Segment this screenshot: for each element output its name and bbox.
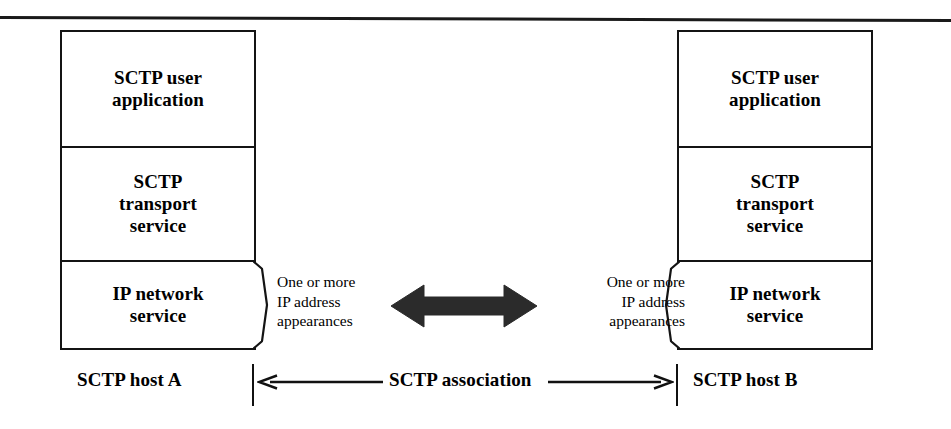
association-caption-row: SCTP host A SCTP association SCTP host B	[0, 362, 951, 410]
layer-label: SCTP user application	[112, 67, 204, 111]
layer-label: IP network service	[729, 283, 820, 327]
association-tick-left-icon	[252, 364, 254, 406]
ip-address-note-left: One or more IP address appearances	[277, 272, 355, 331]
association-label: SCTP association	[389, 369, 532, 391]
protocol-stack-host-b: SCTP user application SCTP transport ser…	[677, 30, 873, 350]
ip-layer-bulge-right-icon	[253, 260, 269, 350]
figure-canvas: SCTP user application SCTP transport ser…	[0, 0, 951, 429]
layer-box-sctp-user-application-b: SCTP user application	[677, 30, 873, 148]
host-label-a: SCTP host A	[77, 369, 182, 391]
host-label-b: SCTP host B	[693, 369, 798, 391]
layer-box-ip-network-service-b: IP network service	[677, 262, 873, 350]
arrow-right-icon	[548, 374, 674, 390]
layer-box-ip-network-service-a: IP network service	[60, 262, 256, 350]
layer-label: IP network service	[112, 283, 203, 327]
top-horizontal-rule	[0, 16, 951, 22]
layer-label: SCTP transport service	[736, 171, 814, 237]
ip-address-note-right: One or more IP address appearances	[607, 272, 685, 331]
association-tick-right-icon	[676, 364, 678, 406]
protocol-stack-host-a: SCTP user application SCTP transport ser…	[60, 30, 256, 350]
layer-box-sctp-transport-service-b: SCTP transport service	[677, 148, 873, 262]
layer-label: SCTP user application	[729, 67, 821, 111]
layer-box-sctp-user-application-a: SCTP user application	[60, 30, 256, 148]
arrow-left-icon	[257, 374, 383, 390]
layer-label: SCTP transport service	[119, 171, 197, 237]
layer-box-sctp-transport-service-a: SCTP transport service	[60, 148, 256, 262]
double-headed-arrow-icon	[391, 283, 537, 329]
